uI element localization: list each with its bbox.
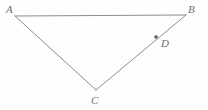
geometry-figure: A B C D: [0, 0, 208, 110]
figure-canvas: [0, 0, 208, 110]
figure-background: [0, 0, 208, 110]
vertex-label-c: C: [91, 95, 98, 106]
vertex-label-a: A: [6, 4, 13, 15]
point-label-d: D: [161, 38, 169, 49]
vertex-label-b: B: [188, 4, 195, 15]
point-d-marker: [155, 36, 158, 39]
